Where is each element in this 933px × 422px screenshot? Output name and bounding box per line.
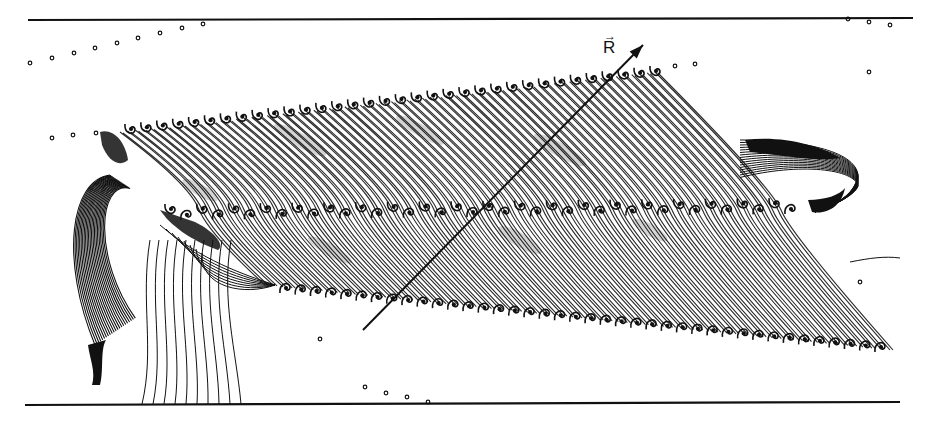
tracer-dot: [867, 70, 871, 74]
tracer-dot: [673, 64, 677, 68]
tracer-dot: [50, 136, 54, 140]
streamline-figure: → R: [0, 0, 933, 422]
tracer-dot: [693, 62, 697, 66]
tracer-dot: [94, 131, 98, 135]
tracer-dot: [363, 385, 367, 389]
tracer-dot: [93, 46, 97, 50]
tracer-dot: [136, 36, 140, 40]
tracer-dot: [867, 20, 871, 24]
tracer-dot: [115, 41, 119, 45]
tracer-dot: [72, 51, 76, 55]
tracer-dot: [201, 22, 205, 26]
tracer-dot: [158, 31, 162, 35]
vector-r-label: → R: [603, 38, 615, 58]
tracer-dot: [318, 337, 322, 341]
wall-top: [28, 18, 913, 20]
tracer-dot: [426, 400, 430, 404]
tracer-dot: [180, 26, 184, 30]
tracer-dot: [50, 56, 54, 60]
streamline-drawing: [0, 0, 933, 422]
tracer-dot: [858, 280, 862, 284]
vector-arrow-glyph: →: [604, 29, 616, 43]
tracer-dot: [888, 23, 892, 27]
wall-bottom: [25, 402, 900, 405]
tracer-dot: [384, 391, 388, 395]
channel-walls: [25, 18, 913, 405]
tracer-dot: [71, 133, 75, 137]
tracer-dot: [28, 61, 32, 65]
tracer-dot: [405, 395, 409, 399]
